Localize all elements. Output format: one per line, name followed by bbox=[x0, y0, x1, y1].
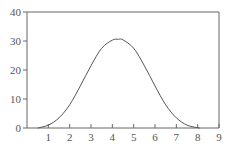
x-tick-label: 9 bbox=[216, 131, 222, 143]
line-chart: 010203040 123456789 bbox=[0, 0, 230, 149]
x-tick-label: 5 bbox=[131, 131, 137, 143]
y-tick-label: 40 bbox=[10, 6, 22, 18]
y-tick-label: 20 bbox=[10, 64, 22, 76]
data-line bbox=[38, 39, 200, 128]
x-tick-label: 8 bbox=[195, 131, 201, 143]
x-tick-label: 6 bbox=[152, 131, 158, 143]
x-tick-label: 3 bbox=[88, 131, 94, 143]
y-tick-label: 0 bbox=[16, 122, 22, 134]
x-tick-label: 7 bbox=[174, 131, 180, 143]
y-tick-label: 10 bbox=[10, 93, 22, 105]
plot-frame bbox=[27, 12, 219, 128]
x-tick-label: 1 bbox=[46, 131, 52, 143]
x-tick-label: 4 bbox=[110, 131, 116, 143]
y-axis: 010203040 bbox=[10, 6, 27, 134]
y-tick-label: 30 bbox=[10, 35, 22, 47]
x-tick-label: 2 bbox=[67, 131, 73, 143]
